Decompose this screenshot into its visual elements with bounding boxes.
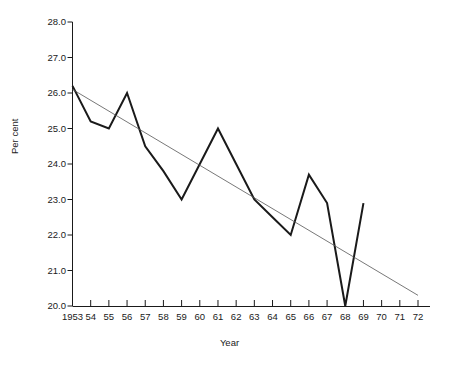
y-axis-tick-label: 24.0 [20, 159, 66, 169]
line-chart: 20.021.022.023.024.025.026.027.028.0 195… [0, 0, 459, 367]
axis-lines [73, 22, 431, 307]
x-axis-tick-label: 72 [398, 312, 438, 322]
data-series-layer [73, 86, 419, 306]
y-axis-tick-label: 25.0 [20, 124, 66, 134]
series-line [73, 89, 419, 295]
x-axis-ticks [73, 300, 419, 306]
y-axis-ticks [68, 22, 73, 306]
y-axis-tick-label: 23.0 [20, 195, 66, 205]
y-axis-tick-label: 22.0 [20, 230, 66, 240]
y-axis-tick-label: 26.0 [20, 88, 66, 98]
y-axis-tick-label: 21.0 [20, 266, 66, 276]
series-line [73, 86, 364, 306]
x-axis-title: Year [0, 337, 459, 348]
y-axis-title: Per cent [9, 74, 20, 154]
y-axis-tick-label: 20.0 [20, 301, 66, 311]
y-axis-tick-label: 27.0 [20, 53, 66, 63]
y-axis-tick-label: 28.0 [20, 17, 66, 27]
